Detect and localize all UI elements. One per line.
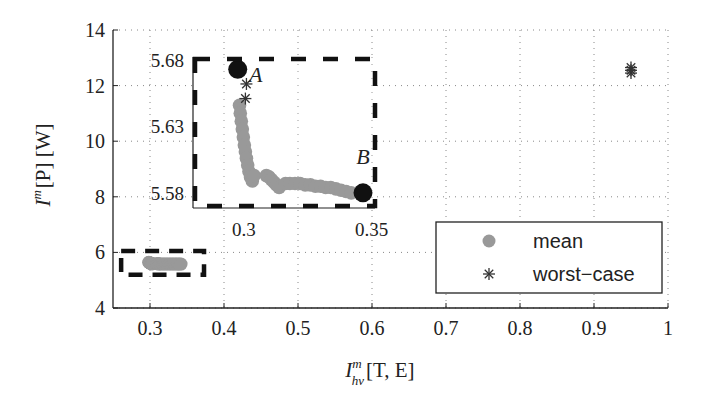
x-tick-label: 0.8 <box>508 317 533 339</box>
inset-x-tick-label: 0.35 <box>355 219 388 240</box>
svg-text:Imhv[T, E]: Imhv[T, E] <box>344 356 414 388</box>
y-tick-label: 14 <box>85 19 105 41</box>
y-tick-label: 10 <box>85 130 105 152</box>
x-label-sup: m <box>352 356 361 371</box>
inset-y-tick-label: 5.63 <box>151 116 184 137</box>
point-a-label: A <box>247 62 263 87</box>
point-b-label: B <box>356 144 369 169</box>
x-tick-label: 0.9 <box>582 317 607 339</box>
y-label-rest: [P] [W] <box>31 123 55 188</box>
x-axis-label: Imhv[T, E] <box>344 356 414 388</box>
y-label-sup: m <box>29 190 44 199</box>
mean-marker-icon <box>483 235 496 248</box>
x-label-sub: hv <box>352 373 365 388</box>
x-tick-label: 0.3 <box>138 317 163 339</box>
y-tick-label: 8 <box>95 186 105 208</box>
legend-worst-label: worst−case <box>532 263 635 285</box>
y-tick-label: 12 <box>85 75 105 97</box>
legend: mean worst−case <box>436 222 662 293</box>
x-tick-label: 1 <box>663 317 673 339</box>
x-tick-label: 0.5 <box>286 317 311 339</box>
inset-x-tick-label: 0.3 <box>232 219 256 240</box>
scatter-chart: 0.30.40.50.60.70.80.91468101214 0.30.355… <box>0 0 709 399</box>
x-tick-label: 0.4 <box>212 317 237 339</box>
y-tick-label: 4 <box>95 297 105 319</box>
x-label-rest: [T, E] <box>366 358 415 382</box>
inset-y-tick-label: 5.68 <box>151 50 184 71</box>
legend-mean-label: mean <box>533 230 583 252</box>
inset-plot: 0.30.355.585.635.68 A B <box>151 50 389 240</box>
y-axis-label: Im[P] [W] <box>29 123 55 207</box>
x-tick-label: 0.7 <box>434 317 459 339</box>
svg-text:Im[P] [W]: Im[P] [W] <box>29 123 55 207</box>
y-tick-label: 6 <box>95 241 105 263</box>
worst-case-marker-icon <box>483 268 495 280</box>
inset-y-tick-label: 5.58 <box>151 183 184 204</box>
x-tick-label: 0.6 <box>360 317 385 339</box>
